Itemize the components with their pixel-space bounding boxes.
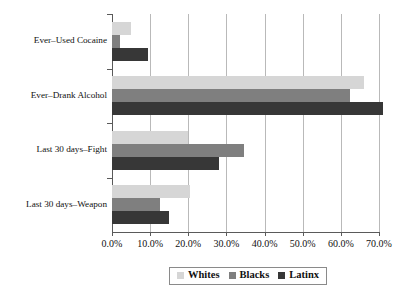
value-axis-tick bbox=[226, 232, 227, 236]
value-axis-line bbox=[112, 232, 379, 233]
value-axis-tick-label: 50.0% bbox=[290, 239, 316, 249]
value-axis-tick bbox=[303, 232, 304, 236]
value-axis-tick-label: 30.0% bbox=[214, 239, 240, 249]
category-label: Ever–Drank Alcohol bbox=[0, 91, 107, 100]
legend-swatch-icon bbox=[278, 272, 285, 279]
value-axis-tick-label: 0.0% bbox=[102, 239, 123, 249]
gridline bbox=[303, 14, 304, 232]
bar bbox=[112, 144, 244, 157]
legend-item-latinx[interactable]: Latinx bbox=[278, 270, 319, 281]
gridline bbox=[188, 14, 189, 232]
value-axis-tick-label: 40.0% bbox=[252, 239, 278, 249]
value-axis-tick bbox=[188, 232, 189, 236]
value-axis-tick bbox=[379, 232, 380, 236]
value-axis-tick-label: 10.0% bbox=[137, 239, 163, 249]
bar bbox=[112, 198, 160, 211]
value-axis-tick-label: 70.0% bbox=[366, 239, 392, 249]
bar bbox=[112, 89, 350, 102]
category-axis-labels: Ever–Used CocaineEver–Drank AlcoholLast … bbox=[0, 14, 107, 232]
legend-item-whites[interactable]: Whites bbox=[177, 270, 220, 281]
bar bbox=[112, 185, 190, 198]
value-axis-tick bbox=[150, 232, 151, 236]
bar bbox=[112, 22, 131, 35]
gridline bbox=[265, 14, 266, 232]
legend-item-blacks[interactable]: Blacks bbox=[229, 270, 270, 281]
bar-chart: Ever–Used CocaineEver–Drank AlcoholLast … bbox=[0, 0, 401, 297]
legend-swatch-icon bbox=[177, 272, 184, 279]
bar bbox=[112, 157, 219, 170]
bar bbox=[112, 102, 383, 115]
category-label: Ever–Used Cocaine bbox=[0, 36, 107, 45]
bar bbox=[112, 131, 188, 144]
bar bbox=[112, 211, 169, 224]
legend-label: Blacks bbox=[240, 270, 270, 281]
bar bbox=[112, 76, 364, 89]
value-axis-tick bbox=[265, 232, 266, 236]
value-axis-tick bbox=[341, 232, 342, 236]
chart-legend: WhitesBlacksLatinx bbox=[169, 267, 327, 285]
plot-area bbox=[112, 14, 379, 232]
category-axis-tick bbox=[107, 178, 112, 179]
legend-label: Whites bbox=[188, 270, 220, 281]
value-axis-tick-label: 60.0% bbox=[328, 239, 354, 249]
value-axis-tick bbox=[112, 232, 113, 236]
bar bbox=[112, 48, 148, 61]
category-axis-tick bbox=[107, 14, 112, 15]
category-axis-tick bbox=[107, 123, 112, 124]
gridline bbox=[379, 14, 380, 232]
category-axis-tick bbox=[107, 69, 112, 70]
category-label: Last 30 days–Fight bbox=[0, 145, 107, 154]
category-label: Last 30 days–Weapon bbox=[0, 200, 107, 209]
legend-label: Latinx bbox=[289, 270, 319, 281]
legend-swatch-icon bbox=[229, 272, 236, 279]
bar bbox=[112, 35, 120, 48]
gridline bbox=[341, 14, 342, 232]
gridline bbox=[226, 14, 227, 232]
value-axis-tick-label: 20.0% bbox=[175, 239, 201, 249]
